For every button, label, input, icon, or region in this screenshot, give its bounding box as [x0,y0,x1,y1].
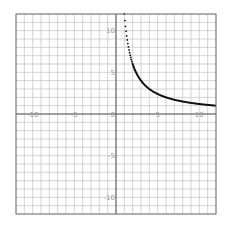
curve-plot [123,13,216,106]
curve-dot [131,61,133,63]
curve-dot [128,46,130,48]
curve-dot [130,57,132,59]
axes [16,14,216,214]
y-tick-label: 5 [111,69,115,77]
curve-dot [126,39,128,41]
x-tick-label: 5 [155,111,159,119]
curve-dot [128,49,130,51]
curve-dot [130,59,132,61]
curve-dot [129,54,131,56]
x-tick-label: -5 [71,111,78,119]
curve-dot [127,43,129,45]
function-graph: -10-5510105-5-100 [0,0,230,229]
y-tick-label: 10 [106,27,115,35]
curve-dot [124,20,126,22]
curve-dot [129,52,131,54]
x-tick-label: -10 [27,111,38,119]
origin-label: 0 [111,111,115,119]
curve-dot [125,30,127,32]
curve-dot [126,35,128,37]
curve-dot [125,25,127,27]
y-tick-label: -10 [104,194,115,202]
x-tick-label: 10 [195,111,204,119]
y-tick-label: -5 [108,152,115,160]
